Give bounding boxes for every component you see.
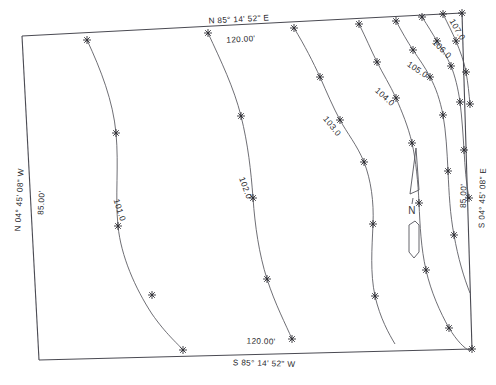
- east-line-distance-label: 85.00': [459, 184, 469, 208]
- contour-label-104: 104.0: [373, 85, 397, 108]
- survey-plat-canvas: N N 85° 14' 52" E 120.00' S 85° 14' 52" …: [0, 0, 496, 385]
- contour-label-106: 106.0: [430, 37, 453, 60]
- contour-label-101: 101.0: [112, 198, 129, 223]
- west-line-distance-label: 85.00': [36, 190, 46, 215]
- contour-line-103: [294, 28, 395, 344]
- north-arrow-label: N: [408, 205, 416, 216]
- west-line-bearing-label: N 04° 45' 08" W: [13, 168, 25, 231]
- contour-label-105: 105.0: [405, 59, 430, 80]
- plat-drawing: N N 85° 14' 52" E 120.00' S 85° 14' 52" …: [0, 0, 496, 385]
- contour-line-105: [396, 21, 470, 293]
- north-arrow-tail: [409, 221, 419, 258]
- contour-label-102: 102.0: [237, 175, 254, 200]
- east-line-bearing-label: S 04° 45' 08" E: [477, 167, 488, 228]
- south-line-distance-label: 120.00': [246, 337, 275, 347]
- shot-point-markers: [83, 9, 476, 354]
- north-line-distance-label: 120.00': [226, 34, 256, 45]
- contour-line-101: [87, 40, 183, 350]
- north-arrow-stem: [412, 198, 413, 204]
- south-line-bearing-label: S 85° 14' 52" W: [233, 358, 296, 369]
